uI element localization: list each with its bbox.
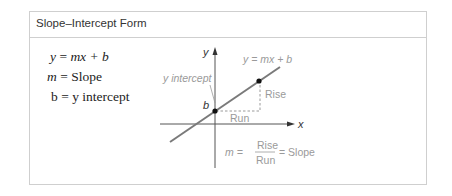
rise-label: Rise (265, 88, 286, 100)
y-intercept-label: y intercept (162, 72, 213, 84)
y-axis-label: y (202, 46, 210, 58)
run-label: Run (230, 112, 249, 124)
formula-rhs: = Slope (279, 146, 315, 158)
formula-lhs: m = (225, 146, 243, 158)
x-arrow-icon (287, 122, 295, 127)
y-arrow-icon (213, 47, 218, 55)
line-equation-label: y = mx + b (242, 53, 292, 65)
y-intercept-pointer (210, 85, 215, 103)
slope-diagram: x y y = mx + b Rise Run y intercept b m … (0, 0, 452, 196)
b-label: b (203, 99, 209, 111)
second-point (256, 78, 261, 83)
y-intercept-point (212, 108, 217, 113)
formula-denominator: Run (256, 154, 275, 166)
formula-numerator: Rise (257, 139, 278, 151)
x-axis-label: x (297, 118, 304, 130)
